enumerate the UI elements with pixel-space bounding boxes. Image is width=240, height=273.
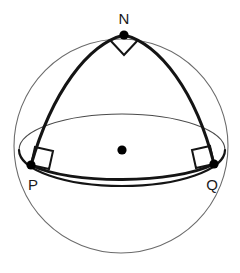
arc-N-to-P (31, 35, 124, 165)
vertex-dot-P (26, 160, 35, 169)
vertex-label-Q: Q (206, 176, 218, 193)
sphere-center-dot (117, 145, 126, 154)
equator-back-arc (19, 114, 225, 150)
vertex-label-P: P (28, 176, 38, 193)
vertex-dot-N (119, 30, 128, 39)
sphere-diagram-canvas: N P Q (0, 0, 240, 273)
right-angle-marker-N (110, 40, 138, 55)
vertex-dot-Q (209, 159, 218, 168)
arc-N-to-Q (124, 35, 214, 164)
spherical-triangle-figure: N P Q (0, 0, 240, 273)
vertex-label-N: N (119, 10, 130, 27)
